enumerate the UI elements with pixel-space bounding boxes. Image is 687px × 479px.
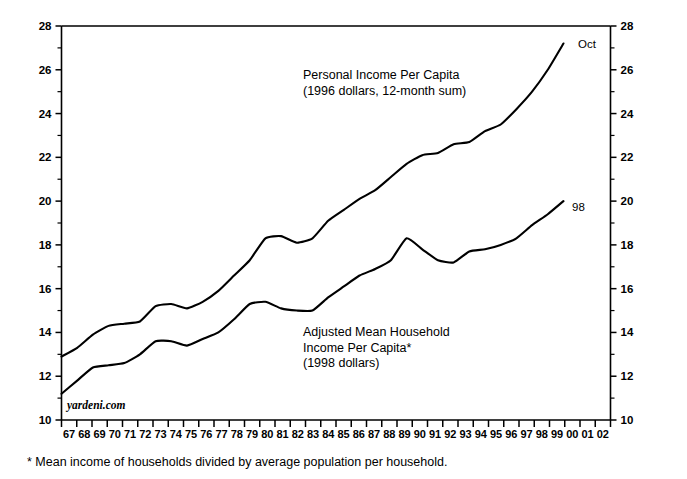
y-axis-tick-label-left: 12 xyxy=(39,370,52,382)
y-axis-tick-label-right: 24 xyxy=(621,108,634,120)
x-axis-tick-label: 75 xyxy=(185,428,197,440)
y-axis-tick-label-left: 22 xyxy=(39,151,52,163)
x-axis-tick-label: 72 xyxy=(139,428,151,440)
x-axis-tick-label: 80 xyxy=(261,428,273,440)
x-axis-tick-label: 95 xyxy=(490,428,502,440)
x-axis-tick-label: 67 xyxy=(63,428,75,440)
y-axis-tick-label-right: 16 xyxy=(621,283,634,295)
y-axis-tick-label-right: 10 xyxy=(621,414,634,426)
upper-series-end-label: Oct xyxy=(578,38,597,50)
y-axis-tick-label-left: 10 xyxy=(39,414,52,426)
x-axis-labels: 6768697071727374757677787980818283848586… xyxy=(63,428,609,440)
y-axis-tick-label-right: 28 xyxy=(621,20,634,32)
x-axis-tick-label: 00 xyxy=(566,428,578,440)
y-axis-tick-label-left: 24 xyxy=(39,108,52,120)
x-axis-tick-label: 01 xyxy=(582,428,594,440)
y-axis-labels-left: 10121416182022242628 xyxy=(39,20,52,426)
x-axis-tick-label: 82 xyxy=(292,428,304,440)
x-axis-tick-label: 99 xyxy=(551,428,563,440)
x-axis-tick-label: 92 xyxy=(444,428,456,440)
lower-series-annotation-line-2: Income Per Capita* xyxy=(303,341,412,355)
x-axis-tick-label: 88 xyxy=(383,428,395,440)
y-axis-tick-label-left: 16 xyxy=(39,283,52,295)
x-axis-tick-label: 98 xyxy=(536,428,548,440)
x-axis-tick-label: 94 xyxy=(475,428,488,440)
chart-canvas: 10121416182022242628 1012141618202224262… xyxy=(0,0,687,479)
y-axis-tick-label-left: 20 xyxy=(39,195,52,207)
y-axis-tick-label-right: 20 xyxy=(621,195,634,207)
lower-series-annotation-line-1: Adjusted Mean Household xyxy=(303,325,450,339)
x-axis-tick-label: 93 xyxy=(460,428,472,440)
upper-series-annotation-line-2: (1996 dollars, 12-month sum) xyxy=(303,84,466,98)
series-end-labels-group: Oct98 xyxy=(572,38,597,213)
lower-series-annotation-line-3: (1998 dollars) xyxy=(303,356,379,370)
x-axis-tick-label: 97 xyxy=(521,428,533,440)
y-axis-tick-label-right: 14 xyxy=(621,326,634,338)
chart-footnote: * Mean income of households divided by a… xyxy=(27,455,447,469)
x-axis-tick-label: 85 xyxy=(338,428,350,440)
x-axis-tick-label: 91 xyxy=(429,428,441,440)
x-axis-tick-label: 77 xyxy=(216,428,228,440)
y-axis-tick-label-right: 12 xyxy=(621,370,634,382)
x-axis-tick-label: 69 xyxy=(94,428,106,440)
x-axis-tick-label: 89 xyxy=(399,428,411,440)
chart-figure: 10121416182022242628 1012141618202224262… xyxy=(0,0,687,479)
yardeni-watermark: yardeni.com xyxy=(65,399,126,412)
y-axis-tick-label-right: 26 xyxy=(621,64,634,76)
x-axis-tick-label: 79 xyxy=(246,428,258,440)
x-axis-tick-label: 73 xyxy=(155,428,167,440)
x-axis-tick-label: 68 xyxy=(78,428,90,440)
watermark-group: yardeni.com xyxy=(65,399,126,412)
y-axis-tick-label-right: 22 xyxy=(621,151,634,163)
x-axis-tick-label: 84 xyxy=(322,428,335,440)
x-axis-tick-label: 90 xyxy=(414,428,426,440)
y-axis-tick-label-right: 18 xyxy=(621,239,634,251)
y-axis-tick-label-left: 28 xyxy=(39,20,52,32)
x-axis-tick-label: 87 xyxy=(368,428,380,440)
lower-series-end-label: 98 xyxy=(572,201,585,213)
series-annotations-group: Personal Income Per Capita(1996 dollars,… xyxy=(303,68,466,370)
upper-series-annotation-line-1: Personal Income Per Capita xyxy=(303,68,459,82)
x-axis-tick-label: 81 xyxy=(277,428,289,440)
x-axis-tick-label: 76 xyxy=(200,428,212,440)
x-axis-tick-label: 78 xyxy=(231,428,243,440)
x-axis-tick-label: 83 xyxy=(307,428,319,440)
x-axis-tick-label: 71 xyxy=(124,428,136,440)
x-axis-tick-label: 74 xyxy=(170,428,183,440)
x-axis-tick-label: 02 xyxy=(597,428,609,440)
x-axis-tick-label: 96 xyxy=(505,428,517,440)
y-axis-tick-label-left: 26 xyxy=(39,64,52,76)
y-axis-labels-right: 10121416182022242628 xyxy=(621,20,634,426)
y-axis-tick-label-left: 18 xyxy=(39,239,52,251)
x-axis-tick-label: 70 xyxy=(109,428,121,440)
x-axis-tick-label: 86 xyxy=(353,428,365,440)
y-axis-tick-label-left: 14 xyxy=(39,326,52,338)
